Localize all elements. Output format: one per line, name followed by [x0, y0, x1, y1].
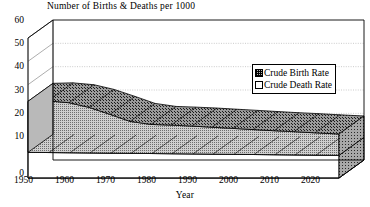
x-tick-1990: 1990 — [178, 175, 197, 185]
y-tick-20: 20 — [0, 109, 24, 119]
chart-legend: Crude Birth Rate Crude Death Rate — [252, 64, 336, 94]
y-tick-30: 30 — [0, 86, 24, 96]
legend-item-crude-death-rate: Crude Death Rate — [255, 79, 332, 91]
x-tick-1980: 1980 — [137, 175, 156, 185]
legend-swatch-birth-icon — [255, 69, 263, 77]
x-tick-2020: 2020 — [301, 175, 320, 185]
x-axis-title: Year — [0, 190, 370, 200]
x-tick-1950: 1950 — [14, 175, 33, 185]
y-tick-50: 50 — [0, 39, 24, 49]
legend-item-crude-birth-rate: Crude Birth Rate — [255, 67, 332, 79]
x-axis-ticks: 1950 1960 1970 1980 1990 2000 2010 2020 — [0, 175, 370, 189]
y-tick-10: 10 — [0, 132, 24, 142]
chart-container: Number of Births & Deaths per 1000 — [0, 0, 370, 207]
y-tick-40: 40 — [0, 62, 24, 72]
x-tick-2010: 2010 — [260, 175, 279, 185]
x-tick-1960: 1960 — [55, 175, 74, 185]
legend-label-birth: Crude Birth Rate — [264, 68, 329, 78]
legend-label-death: Crude Death Rate — [264, 80, 332, 90]
legend-swatch-death-icon — [255, 81, 263, 89]
x-tick-1970: 1970 — [96, 175, 115, 185]
y-tick-60: 60 — [0, 16, 24, 26]
x-tick-2000: 2000 — [219, 175, 238, 185]
